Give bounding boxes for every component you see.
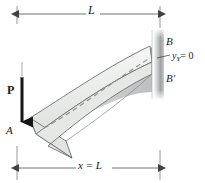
cantilever-beam-figure: L x = L B B′ yY= 0 P A <box>0 0 205 183</box>
dimension-label-distance-bottom: x = L <box>78 160 102 171</box>
label-deflected-point-B-prime: B′ <box>166 73 175 84</box>
slope-condition-equality: = 0 <box>180 50 193 61</box>
dimension-label-length-top: L <box>88 4 95 16</box>
label-support-point-B: B <box>166 36 173 47</box>
fixed-support-wall <box>152 28 164 100</box>
label-free-end-A: A <box>6 125 13 136</box>
label-slope-condition: yY= 0 <box>172 51 194 63</box>
diagram-canvas <box>0 0 205 183</box>
deformed-beam <box>30 46 152 158</box>
label-load-P: P <box>7 84 14 96</box>
